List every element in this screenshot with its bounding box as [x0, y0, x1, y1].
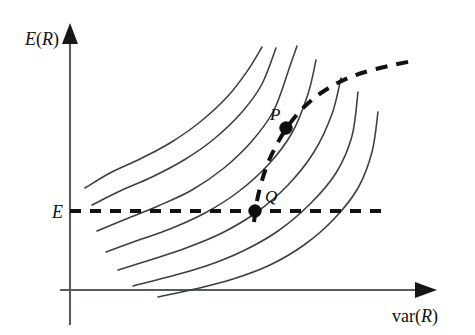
- diagram-svg: PQ E(R) var(R) E: [0, 0, 475, 335]
- figure-background: [0, 0, 475, 335]
- x-axis-label: var(R): [392, 306, 438, 327]
- figure-canvas: PQ E(R) var(R) E: [0, 0, 475, 335]
- y-axis-label-paren-close: ): [53, 29, 59, 50]
- y-axis-label-var: R: [41, 29, 53, 49]
- y-axis-label: E(R): [24, 29, 59, 50]
- point-label-p: P: [269, 105, 280, 124]
- expected-return-level-label: E: [51, 202, 63, 222]
- x-axis-label-paren-close: ): [432, 306, 438, 327]
- x-axis-label-var: R: [420, 306, 432, 326]
- point-marker-q: [249, 205, 261, 217]
- point-label-q: Q: [265, 187, 277, 206]
- y-axis-label-prefix: E: [24, 29, 36, 49]
- point-marker-p: [280, 122, 292, 134]
- x-axis-label-prefix: var: [392, 306, 415, 326]
